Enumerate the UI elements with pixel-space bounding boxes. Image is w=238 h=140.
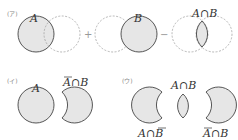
a-cap-b-shape xyxy=(178,94,189,118)
section-tag-i: (イ) xyxy=(7,77,18,84)
label-a-cap-notb: A∩B xyxy=(137,127,163,140)
a-minus-b-shape xyxy=(132,87,162,123)
section-tag-a: (ア) xyxy=(7,10,18,17)
label-a-cap-b: A∩B xyxy=(191,7,217,20)
label-nota-cap-b: A∩B xyxy=(62,76,88,89)
venn-diagram: (ア) A + B − A∩B (イ) A A∩B (ウ) A∩B A∩B A∩… xyxy=(0,0,238,140)
plus-sign: + xyxy=(84,29,92,40)
minus-sign: − xyxy=(160,29,168,40)
label-u-nota-cap-b: A∩B xyxy=(202,127,228,140)
label-i-a: A xyxy=(31,82,40,95)
label-a: A xyxy=(29,12,38,25)
label-u-a-cap-b: A∩B xyxy=(170,79,196,92)
b-minus-a-shape-2 xyxy=(206,87,236,123)
label-b: B xyxy=(133,12,142,25)
section-tag-u: (ウ) xyxy=(122,77,133,84)
b-minus-a-shape xyxy=(62,87,92,123)
